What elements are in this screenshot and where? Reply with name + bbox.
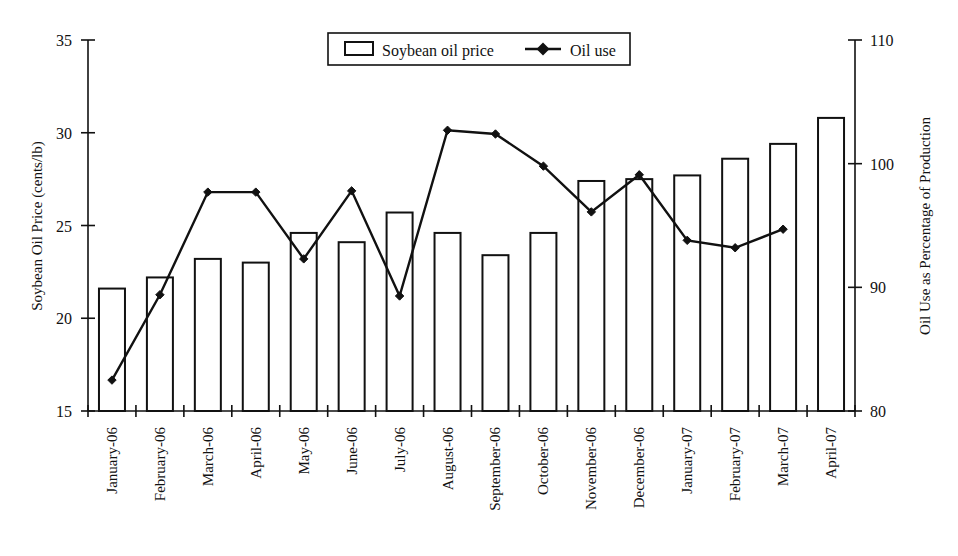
left-axis-title: Soybean Oil Price (cents/lb) — [29, 141, 46, 311]
x-axis-category-label: April-06 — [248, 427, 264, 479]
right-tick-label: 100 — [870, 156, 894, 173]
bar — [195, 259, 221, 411]
x-axis-category-label: April-07 — [823, 427, 839, 479]
right-axis: 8090100110 Oil Use as Percentage of Prod… — [848, 32, 933, 420]
data-point-marker — [443, 126, 451, 134]
bar — [243, 263, 269, 411]
x-axis-category-label: December-06 — [631, 427, 647, 509]
right-tick-label: 90 — [870, 279, 886, 296]
right-tick-label: 110 — [870, 32, 893, 49]
x-axis-category-label: June-06 — [344, 427, 360, 475]
bar — [482, 255, 508, 411]
left-axis-ticks: 1520253035 — [56, 32, 95, 420]
soybean-oil-chart: 1520253035 Soybean Oil Price (cents/lb) … — [0, 0, 958, 556]
x-axis-category-label: January-06 — [104, 427, 120, 494]
left-tick-label: 20 — [56, 310, 72, 327]
x-axis-category-label: February-06 — [152, 427, 168, 502]
left-axis: 1520253035 Soybean Oil Price (cents/lb) — [29, 32, 95, 420]
bar — [99, 289, 125, 411]
x-axis-labels: January-06February-06March-06April-06May… — [104, 427, 839, 511]
bar — [770, 144, 796, 411]
right-tick-label: 80 — [870, 403, 886, 420]
x-axis-category-label: August-06 — [440, 427, 456, 491]
legend: Soybean oil price Oil use — [328, 33, 630, 65]
left-tick-label: 35 — [56, 32, 72, 49]
x-axis-category-label: March-06 — [200, 427, 216, 487]
x-axis-category-label: February-07 — [727, 427, 743, 502]
data-point-marker — [204, 188, 212, 196]
x-axis-category-label: March-07 — [775, 427, 791, 487]
right-axis-title: Oil Use as Percentage of Production — [917, 117, 933, 335]
bar — [722, 159, 748, 411]
x-axis-category-label: September-06 — [487, 427, 503, 511]
x-axis-category-label: November-06 — [583, 427, 599, 511]
left-tick-label: 15 — [56, 403, 72, 420]
legend-label-oil-use: Oil use — [570, 42, 616, 59]
left-tick-label: 30 — [56, 125, 72, 142]
left-tick-label: 25 — [56, 218, 72, 235]
bar — [387, 213, 413, 411]
legend-swatch-soybean-oil-price — [345, 42, 373, 55]
x-axis-category-label: January-07 — [679, 427, 695, 494]
x-axis: January-06February-06March-06April-06May… — [88, 405, 855, 511]
bar-series-soybean-oil-price — [99, 118, 844, 411]
bar — [435, 233, 461, 411]
x-axis-category-label: May-06 — [296, 427, 312, 475]
legend-label-soybean-oil-price: Soybean oil price — [382, 42, 494, 60]
bar — [674, 175, 700, 411]
chart-container: 1520253035 Soybean Oil Price (cents/lb) … — [0, 0, 958, 556]
bar — [626, 179, 652, 411]
bar — [818, 118, 844, 411]
bar — [530, 233, 556, 411]
x-axis-category-label: October-06 — [535, 427, 551, 496]
x-axis-category-label: July-06 — [392, 427, 408, 473]
bar — [339, 242, 365, 411]
